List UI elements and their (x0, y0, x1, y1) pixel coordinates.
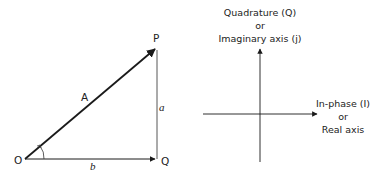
side-label-A: A (81, 91, 89, 103)
vector-A-line (25, 49, 155, 159)
phasor-triangle: O P Q A a b (14, 32, 169, 172)
in-phase-label-line3: Real axis (322, 124, 365, 135)
in-phase-label-line2: or (338, 111, 348, 122)
quadrature-label-line1: Quadrature (Q) (224, 7, 296, 18)
iq-axes: Quadrature (Q) or Imaginary axis (j) In-… (203, 7, 370, 162)
vertex-label-P: P (153, 32, 159, 44)
in-phase-label-line1: In-phase (I) (316, 98, 370, 109)
vertex-label-Q: Q (161, 155, 169, 167)
quadrature-label-line2: or (255, 20, 265, 31)
vertex-label-O: O (14, 154, 22, 166)
angle-arc-icon (40, 146, 44, 159)
quadrature-label-line3: Imaginary axis (j) (218, 33, 301, 44)
diagram-canvas: O P Q A a b Quadrature (Q) or Imaginary … (0, 0, 378, 176)
side-label-b: b (90, 160, 96, 172)
side-label-a: a (159, 101, 165, 113)
